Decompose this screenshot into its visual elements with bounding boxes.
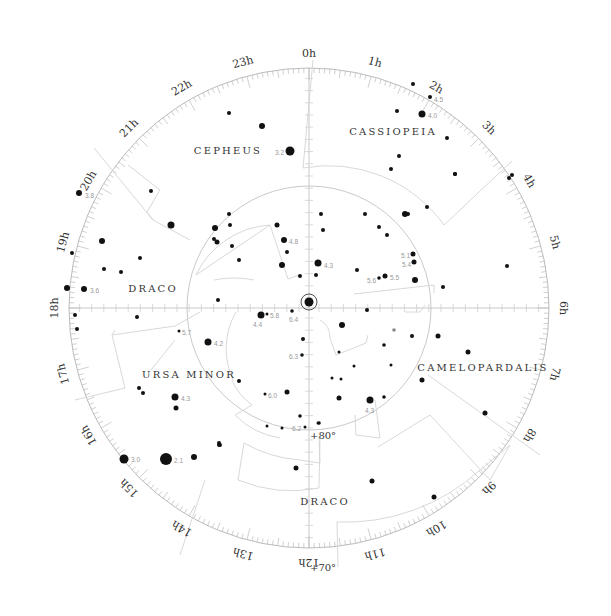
hour-label-22h: 22h	[169, 77, 194, 99]
ra-tick	[486, 150, 490, 153]
ra-tick	[283, 69, 284, 74]
star	[383, 274, 388, 279]
star	[174, 406, 179, 411]
star	[428, 95, 432, 99]
hour-label-11h: 11h	[363, 545, 387, 563]
star	[75, 327, 79, 331]
ra-tick	[80, 379, 85, 381]
ra-tick	[528, 221, 533, 223]
ra-tick	[155, 124, 158, 128]
ra-tick	[456, 121, 459, 125]
ra-tick	[180, 106, 183, 110]
ra-tick	[435, 106, 438, 110]
ra-tick	[75, 359, 80, 360]
star	[205, 339, 212, 346]
ra-tick	[375, 78, 376, 83]
ra-tick	[262, 73, 263, 78]
ra-tick	[212, 523, 214, 528]
ra-tick	[247, 76, 250, 88]
star	[290, 309, 294, 313]
constellation-boundary	[354, 285, 434, 294]
ra-tick	[167, 498, 170, 502]
star	[505, 264, 509, 268]
ra-tick	[242, 534, 243, 539]
hour-label-6h: 6h	[557, 301, 570, 315]
ra-tick	[176, 108, 179, 112]
ra-tick	[262, 538, 263, 543]
star	[298, 414, 302, 418]
ra-tick	[450, 118, 455, 124]
ra-tick	[530, 226, 535, 228]
ra-tick	[389, 82, 391, 87]
ra-tick	[539, 338, 547, 339]
ra-tick	[83, 226, 88, 228]
ra-tick	[355, 538, 356, 543]
magnitude-label: 3.8	[85, 192, 94, 199]
magnitude-label: 4.3	[181, 395, 190, 402]
magnitude-label: 3.6	[90, 287, 99, 294]
hour-label-16h: 16h	[78, 423, 100, 448]
star	[285, 250, 289, 254]
ra-tick	[71, 338, 79, 339]
star	[305, 298, 314, 307]
hour-label-10h: 10h	[424, 518, 449, 540]
ra-tick	[440, 503, 443, 507]
ra-tick	[94, 412, 98, 414]
ra-tick	[75, 256, 80, 257]
hour-label-21h: 21h	[117, 116, 141, 140]
ra-tick	[360, 74, 361, 79]
ra-tick	[198, 95, 200, 99]
ra-tick	[155, 488, 158, 492]
star	[410, 334, 414, 338]
ra-tick	[87, 216, 94, 219]
ra-tick	[464, 485, 467, 489]
star	[382, 395, 386, 399]
star	[301, 337, 305, 341]
star	[286, 147, 295, 156]
ra-tick	[115, 447, 119, 450]
ra-tick	[510, 430, 514, 433]
hour-label-0h: 0h	[302, 47, 316, 60]
hour-label-17h: 17h	[54, 362, 72, 386]
ra-tick	[85, 221, 90, 223]
star	[178, 330, 181, 333]
ra-tick	[222, 527, 224, 532]
ra-tick	[360, 537, 361, 542]
ra-tick	[77, 246, 89, 249]
ra-tick	[394, 84, 396, 89]
ra-tick	[70, 334, 75, 335]
constellation-boundary	[444, 161, 512, 225]
star	[76, 190, 82, 196]
ra-tick	[212, 88, 214, 93]
ra-tick	[493, 449, 499, 454]
star	[191, 454, 197, 460]
star	[315, 260, 322, 267]
ra-tick	[444, 111, 447, 115]
ra-tick	[479, 142, 483, 145]
hour-label-1h: 1h	[366, 54, 383, 70]
star	[216, 298, 220, 302]
ra-tick	[339, 70, 340, 78]
ra-tick	[257, 74, 258, 79]
ra-tick	[538, 256, 543, 257]
star	[298, 274, 302, 278]
magnitude-label: 6.3	[289, 353, 298, 360]
ra-tick	[147, 481, 150, 485]
magnitude-labels: 3.24.54.03.83.64.84.35.15.45.55.64.45.86…	[85, 96, 443, 464]
star	[212, 225, 218, 231]
ra-tick	[208, 521, 210, 526]
star	[339, 322, 345, 328]
ra-tick	[444, 501, 447, 505]
ra-tick	[227, 82, 229, 87]
ra-tick	[112, 443, 116, 446]
star	[73, 313, 77, 317]
star	[102, 267, 106, 271]
ra-tick	[176, 503, 179, 507]
hour-label-4h: 4h	[520, 171, 538, 190]
ra-tick	[122, 158, 126, 161]
ra-tick	[232, 531, 234, 536]
star	[149, 189, 153, 193]
ra-tick	[431, 509, 434, 513]
ra-tick	[468, 131, 471, 135]
ra-tick	[543, 334, 548, 335]
